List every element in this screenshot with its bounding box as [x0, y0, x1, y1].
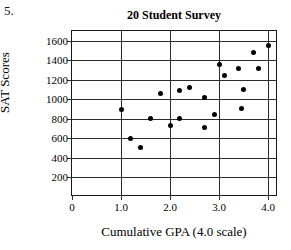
x-axis-tick-label: 0: [69, 201, 75, 213]
scatter-point: [202, 125, 207, 130]
x-gridline: [268, 31, 269, 195]
scatter-point: [119, 107, 124, 112]
y-axis-tick-label: 1600: [46, 35, 68, 47]
scatter-point: [168, 123, 173, 128]
scatter-point: [177, 116, 182, 121]
scatter-point: [236, 66, 241, 71]
x-gridline: [121, 31, 122, 195]
x-gridline: [170, 31, 171, 195]
x-axis-tick-label: 2.0: [163, 201, 177, 213]
y-gridline: [72, 177, 276, 178]
scatter-point: [217, 62, 222, 67]
y-axis-tick-label: 1000: [46, 93, 68, 105]
scatter-point: [266, 43, 271, 48]
scatter-point: [212, 112, 217, 117]
y-axis-tick-label: 600: [52, 132, 69, 144]
scatter-point: [138, 145, 143, 150]
y-axis-title: SAT Scores: [0, 52, 13, 113]
scatter-point: [241, 87, 246, 92]
scatter-point: [222, 73, 227, 78]
scatter-point: [256, 66, 261, 71]
y-axis-tick-label: 800: [52, 113, 69, 125]
x-axis-tick: [121, 195, 122, 200]
scatter-point: [177, 88, 182, 93]
scatter-point: [251, 50, 256, 55]
y-axis-tick-label: 1200: [46, 74, 68, 86]
scatter-plot-figure: 5. 20 Student Survey 2004006008001000120…: [0, 0, 291, 250]
question-number: 5.: [4, 3, 14, 19]
y-axis-tick-label: 1400: [46, 54, 68, 66]
chart-title: 20 Student Survey: [71, 8, 277, 23]
scatter-point: [148, 116, 153, 121]
x-gridline: [219, 31, 220, 195]
y-gridline: [72, 41, 276, 42]
y-gridline: [72, 99, 276, 100]
y-gridline: [72, 158, 276, 159]
y-axis-tick-label: 400: [52, 152, 69, 164]
x-axis-tick-label: 1.0: [114, 201, 128, 213]
scatter-point: [202, 95, 207, 100]
x-axis-tick: [268, 195, 269, 200]
y-gridline: [72, 60, 276, 61]
scatter-point: [128, 136, 133, 141]
x-axis-tick: [170, 195, 171, 200]
y-gridline: [72, 119, 276, 120]
scatter-point: [158, 91, 163, 96]
x-axis-tick-label: 4.0: [261, 201, 275, 213]
scatter-point: [187, 85, 192, 90]
scatter-point: [239, 106, 244, 111]
x-axis-tick: [72, 195, 73, 200]
plot-area: 200400600800100012001400160001.02.03.04.…: [71, 30, 277, 196]
x-axis-tick: [219, 195, 220, 200]
x-axis-title: Cumulative GPA (4.0 scale): [71, 224, 277, 240]
y-gridline: [72, 80, 276, 81]
y-gridline: [72, 138, 276, 139]
x-axis-tick-label: 3.0: [212, 201, 226, 213]
y-axis-tick-label: 200: [52, 171, 69, 183]
